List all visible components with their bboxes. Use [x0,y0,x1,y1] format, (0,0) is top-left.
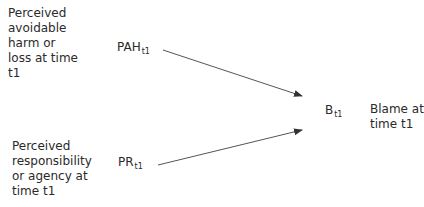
edge-pah-to-b [163,50,302,96]
edge-pr-to-b [158,130,302,165]
edges-layer [0,0,424,207]
